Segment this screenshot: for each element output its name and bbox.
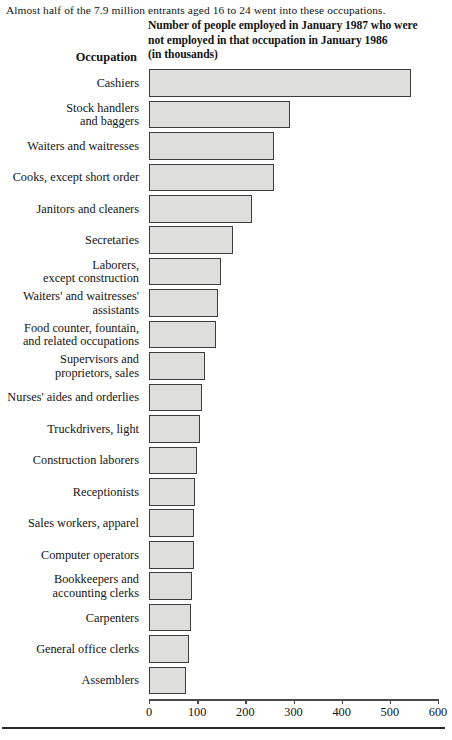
chart-row: Waiters' and waitresses'assistants xyxy=(0,288,447,319)
occupation-label: Computer operators xyxy=(0,540,144,571)
chart-row: Janitors and cleaners xyxy=(0,194,447,225)
occupation-column-header: Occupation xyxy=(0,50,142,65)
occupation-label: Nurses' aides and orderlies xyxy=(0,383,144,414)
chart-row: Waiters and waitresses xyxy=(0,131,447,162)
occupation-label: Cooks, except short order xyxy=(0,162,144,193)
x-axis-tick xyxy=(294,699,295,704)
x-axis-tick xyxy=(390,699,391,704)
bar xyxy=(149,289,218,317)
occupation-label-line: Nurses' aides and orderlies xyxy=(7,391,139,405)
chart-row: Laborers,except construction xyxy=(0,257,447,288)
occupation-label-line: Truckdrivers, light xyxy=(47,423,139,437)
occupation-label: Stock handlersand baggers xyxy=(0,99,144,130)
chart-row: Cashiers xyxy=(0,68,447,99)
x-axis-tick-label: 500 xyxy=(368,705,412,720)
occupation-label: Janitors and cleaners xyxy=(0,194,144,225)
chart-row: Secretaries xyxy=(0,225,447,256)
occupation-label-line: Computer operators xyxy=(41,549,139,563)
value-column-header-line-2: not employed in that occupation in Janua… xyxy=(148,34,444,49)
occupation-label-line: Supervisors and xyxy=(60,353,139,367)
bottom-rule xyxy=(2,727,445,729)
occupation-label-line: Stock handlers xyxy=(66,102,139,116)
x-axis-tick-label: 200 xyxy=(223,705,267,720)
bar xyxy=(149,478,195,506)
occupation-label-line: Janitors and cleaners xyxy=(37,203,139,217)
bar xyxy=(149,69,411,97)
bar xyxy=(149,384,202,412)
bar xyxy=(149,415,200,443)
occupation-label: Assemblers xyxy=(0,666,144,697)
occupation-label: General office clerks xyxy=(0,634,144,665)
occupation-label: Waiters and waitresses xyxy=(0,131,144,162)
chart-row: Truckdrivers, light xyxy=(0,414,447,445)
occupation-label-line: Laborers, xyxy=(92,259,139,273)
occupation-label: Truckdrivers, light xyxy=(0,414,144,445)
occupation-label-line: and related occupations xyxy=(23,335,139,349)
occupation-label: Construction laborers xyxy=(0,445,144,476)
occupation-label: Sales workers, apparel xyxy=(0,508,144,539)
occupation-label-line: Construction laborers xyxy=(33,454,139,468)
occupation-label-line: Carpenters xyxy=(86,612,139,626)
occupation-label-line: General office clerks xyxy=(36,643,139,657)
occupation-label: Secretaries xyxy=(0,225,144,256)
chart-row: Computer operators xyxy=(0,540,447,571)
chart-row: Supervisors andproprietors, sales xyxy=(0,351,447,382)
intro-caption: Almost half of the 7.9 million entrants … xyxy=(6,3,441,17)
occupation-label: Bookkeepers andaccounting clerks xyxy=(0,571,144,602)
x-axis-tick-label: 100 xyxy=(175,705,219,720)
bar xyxy=(149,667,186,695)
value-column-header: Number of people employed in January 198… xyxy=(148,19,444,63)
occupation-label-line: Receptionists xyxy=(73,486,139,500)
x-axis-tick xyxy=(197,699,198,704)
chart-row: Carpenters xyxy=(0,603,447,634)
chart-row: Construction laborers xyxy=(0,445,447,476)
bar-chart-plot: CashiersStock handlersand baggersWaiters… xyxy=(0,68,447,700)
occupation-label-line: Sales workers, apparel xyxy=(28,517,139,531)
occupation-label-line: Cashiers xyxy=(97,77,139,91)
bar xyxy=(149,226,233,254)
chart-row: Stock handlersand baggers xyxy=(0,99,447,130)
bar xyxy=(149,321,216,349)
chart-row: Assemblers xyxy=(0,666,447,697)
occupation-label-line: Bookkeepers and xyxy=(54,573,139,587)
occupation-label-line: accounting clerks xyxy=(53,587,139,601)
chart-row: Bookkeepers andaccounting clerks xyxy=(0,571,447,602)
bar xyxy=(149,572,192,600)
occupation-label-line: and baggers xyxy=(80,115,139,129)
chart-row: Cooks, except short order xyxy=(0,162,447,193)
bar xyxy=(149,447,197,475)
occupation-label-line: Waiters' and waitresses' xyxy=(23,290,139,304)
x-axis-tick-label: 0 xyxy=(127,705,171,720)
chart-row: General office clerks xyxy=(0,634,447,665)
occupation-label: Food counter, fountain,and related occup… xyxy=(0,320,144,351)
chart-row: Food counter, fountain,and related occup… xyxy=(0,320,447,351)
occupation-label-line: Food counter, fountain, xyxy=(24,322,139,336)
bar xyxy=(149,258,221,286)
occupation-label: Cashiers xyxy=(0,68,144,99)
bar xyxy=(149,635,189,663)
occupation-label: Waiters' and waitresses'assistants xyxy=(0,288,144,319)
occupation-label: Carpenters xyxy=(0,603,144,634)
chart-row: Sales workers, apparel xyxy=(0,508,447,539)
bar xyxy=(149,352,205,380)
bar xyxy=(149,195,252,223)
value-column-header-line-3: (in thousands) xyxy=(148,48,444,63)
bar xyxy=(149,101,290,129)
occupation-label: Laborers,except construction xyxy=(0,257,144,288)
x-axis-tick-label: 300 xyxy=(272,705,316,720)
occupation-label-line: proprietors, sales xyxy=(55,367,139,381)
occupation-label: Supervisors andproprietors, sales xyxy=(0,351,144,382)
bar xyxy=(149,132,274,160)
x-axis-tick xyxy=(245,699,246,704)
x-axis-tick xyxy=(342,699,343,704)
x-axis-tick xyxy=(149,699,150,704)
bar xyxy=(149,541,194,569)
occupation-label-line: Waiters and waitresses xyxy=(27,140,139,154)
value-column-header-line-1: Number of people employed in January 198… xyxy=(148,19,444,34)
occupation-label-line: Cooks, except short order xyxy=(13,171,139,185)
x-axis-tick xyxy=(438,699,439,704)
chart-row: Nurses' aides and orderlies xyxy=(0,383,447,414)
bar xyxy=(149,164,274,192)
x-axis: 0100200300400500600 xyxy=(0,699,447,740)
occupation-label-line: assistants xyxy=(93,304,139,318)
